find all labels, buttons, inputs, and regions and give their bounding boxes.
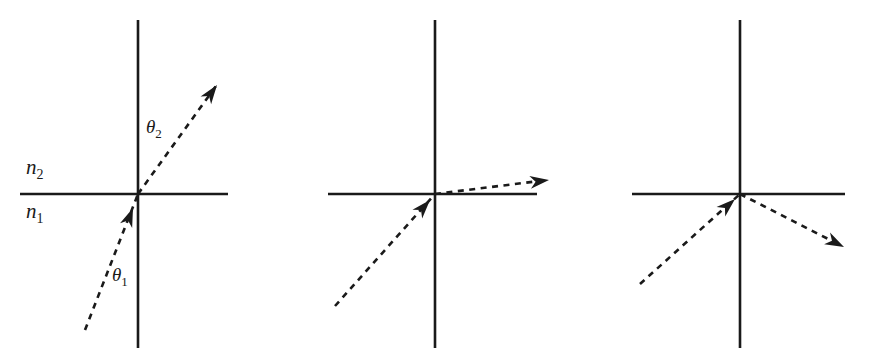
medium-label-lower: n1 xyxy=(26,199,44,226)
refracted-ray-panel-2 xyxy=(435,180,547,194)
reflected-ray-panel-3 xyxy=(740,194,842,246)
panel-critical-angle xyxy=(328,20,550,348)
refracted-ray-arrowhead-panel-1 xyxy=(201,81,223,104)
refraction-figure: n2 n1 θ2 θ1 xyxy=(0,0,881,361)
refracted-ray-panel-1 xyxy=(138,86,216,194)
incident-ray-arrowhead-panel-1 xyxy=(120,206,139,228)
angle-label-refracted: θ2 xyxy=(146,116,162,141)
panel-partial-refraction: n2 n1 θ2 θ1 xyxy=(20,20,228,348)
refracted-ray-arrowhead-panel-2 xyxy=(529,174,549,189)
incident-ray-panel-2 xyxy=(335,194,435,306)
medium-label-upper: n2 xyxy=(26,155,44,182)
incident-ray-arrowhead-panel-2 xyxy=(412,196,434,219)
panel-total-internal-reflection xyxy=(632,20,847,348)
refraction-diagram-canvas: n2 n1 θ2 θ1 xyxy=(0,0,881,361)
angle-label-incident: θ1 xyxy=(112,264,128,289)
reflected-ray-arrowhead-panel-3 xyxy=(824,233,847,253)
